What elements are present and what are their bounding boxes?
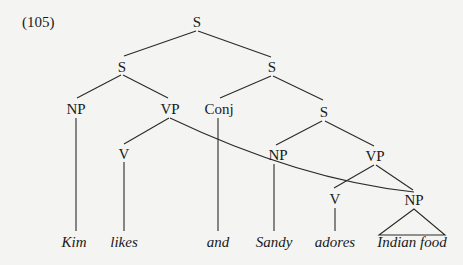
- word-likes: likes: [110, 234, 138, 250]
- edge-slower-np: [276, 121, 322, 145]
- node-v1: V: [119, 146, 130, 162]
- edge-vp-v2: [334, 165, 374, 188]
- node-v2: V: [330, 191, 341, 207]
- node-conj: Conj: [204, 101, 233, 117]
- word-indian-food: Indian food: [376, 234, 447, 250]
- node-np-subj1: NP: [66, 101, 85, 117]
- edge-sleft-np: [77, 75, 121, 98]
- node-np-subj2: NP: [268, 147, 287, 163]
- edge-sright-conj: [220, 76, 271, 98]
- edge-root-sright: [198, 31, 271, 57]
- node-s-left: S: [118, 59, 126, 75]
- edge-sright-slower: [273, 76, 323, 100]
- node-root-s: S: [193, 14, 201, 30]
- edge-vp-npobj: [376, 165, 413, 190]
- edge-sleft-vp: [123, 75, 168, 98]
- node-np-obj: NP: [404, 192, 423, 208]
- syntax-tree-diagram: (105) S S S NP VP Conj S V NP VP V NP Ki…: [0, 0, 463, 265]
- edge-vp-v: [124, 118, 169, 144]
- word-and: and: [207, 234, 230, 250]
- node-s-right: S: [268, 59, 276, 75]
- word-kim: Kim: [60, 234, 86, 250]
- edge-root-sleft: [124, 31, 196, 56]
- tree-edges: [76, 31, 445, 235]
- np-triangle: [379, 209, 445, 235]
- word-adores: adores: [315, 234, 355, 250]
- word-sandy: Sandy: [256, 234, 293, 250]
- edge-slower-vp: [325, 121, 374, 146]
- node-vp2: VP: [365, 148, 384, 164]
- node-s-lower: S: [320, 104, 328, 120]
- node-vp1: VP: [160, 101, 179, 117]
- tree-svg: (105) S S S NP VP Conj S V NP VP V NP Ki…: [0, 0, 463, 265]
- example-number: (105): [22, 14, 55, 31]
